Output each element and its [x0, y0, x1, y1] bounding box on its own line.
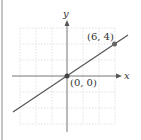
- y-axis-arrow-icon: [65, 20, 70, 26]
- x-axis-label: x: [124, 70, 130, 81]
- plotted-line: [13, 35, 128, 112]
- y-axis-label: y: [62, 8, 69, 19]
- point-6-4: [112, 42, 117, 47]
- origin-label: (0, 0): [70, 77, 97, 88]
- point-6-4-label: (6, 4): [87, 31, 114, 42]
- x-axis-arrow-icon: [116, 74, 122, 79]
- origin-point: [65, 74, 70, 79]
- coordinate-plane: x y (0, 0) (6, 4): [0, 0, 141, 140]
